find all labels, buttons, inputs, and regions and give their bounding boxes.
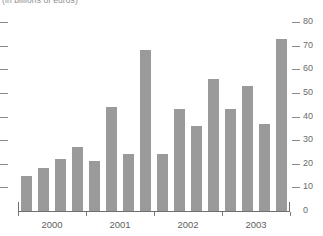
y-axis-tick-label: 60 bbox=[303, 64, 313, 73]
bar bbox=[123, 154, 135, 211]
x-axis-label: 2001 bbox=[109, 219, 130, 230]
right-axis-tick bbox=[292, 69, 300, 70]
y-axis-tick-label: 50 bbox=[303, 88, 313, 97]
bar bbox=[21, 176, 33, 211]
left-axis-tick bbox=[0, 117, 8, 118]
bar bbox=[140, 50, 152, 211]
left-axis-tick bbox=[0, 46, 8, 47]
bar bbox=[276, 39, 288, 211]
y-axis-tick-label: 0 bbox=[303, 206, 308, 215]
right-axis-tick bbox=[292, 46, 300, 47]
x-axis-tick bbox=[290, 212, 291, 216]
right-axis-tick bbox=[292, 164, 300, 165]
left-axis-tick bbox=[0, 93, 8, 94]
x-axis-label: 2003 bbox=[245, 219, 266, 230]
y-axis-tick-label: 10 bbox=[303, 182, 313, 191]
x-axis-label: 2002 bbox=[177, 219, 198, 230]
bar bbox=[55, 159, 67, 211]
right-axis-tick bbox=[292, 117, 300, 118]
bar bbox=[242, 86, 254, 211]
left-axis-tick bbox=[0, 69, 8, 70]
y-axis-tick-label: 40 bbox=[303, 112, 313, 121]
x-axis-tick bbox=[154, 212, 155, 216]
units-caption: (in billions of euros) bbox=[2, 0, 78, 5]
y-axis-tick-label: 30 bbox=[303, 135, 313, 144]
left-axis-tick bbox=[0, 187, 8, 188]
bar bbox=[191, 126, 203, 211]
bar bbox=[208, 79, 220, 211]
right-axis-tick bbox=[292, 140, 300, 141]
x-axis-tick bbox=[86, 212, 87, 216]
y-axis-tick-label: 70 bbox=[303, 41, 313, 50]
bar bbox=[259, 124, 271, 211]
right-axis-spur bbox=[289, 202, 290, 212]
left-axis-tick bbox=[0, 164, 8, 165]
bar bbox=[157, 154, 169, 211]
left-axis-tick bbox=[0, 140, 8, 141]
bar bbox=[225, 109, 237, 211]
x-axis-label: 2000 bbox=[41, 219, 62, 230]
left-axis-spur bbox=[18, 202, 19, 212]
right-axis-tick bbox=[292, 22, 300, 23]
bar-chart: (in billions of euros) 01020304050607080… bbox=[0, 0, 323, 236]
bar bbox=[72, 147, 84, 211]
bar bbox=[106, 107, 118, 211]
right-axis-tick bbox=[292, 93, 300, 94]
bar bbox=[38, 168, 50, 211]
y-axis-tick-label: 20 bbox=[303, 159, 313, 168]
x-axis-tick bbox=[222, 212, 223, 216]
bar bbox=[174, 109, 186, 211]
bar bbox=[89, 161, 101, 211]
y-axis-tick-label: 80 bbox=[303, 17, 313, 26]
left-axis-tick bbox=[0, 22, 8, 23]
x-axis-tick bbox=[18, 212, 19, 216]
right-axis-tick bbox=[292, 187, 300, 188]
